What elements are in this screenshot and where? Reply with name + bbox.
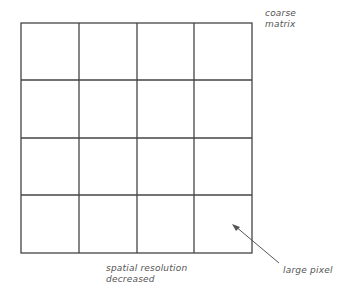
spatial-resolution-label: spatial resolution decreased: [106, 263, 187, 285]
label-line: coarse: [265, 8, 296, 19]
arrow-icon: [232, 224, 279, 263]
coarse-matrix-grid: [0, 0, 340, 299]
label-line: decreased: [106, 274, 187, 285]
large-pixel-label: large pixel: [283, 265, 333, 276]
label-line: spatial resolution: [106, 263, 187, 274]
coarse-matrix-label: coarse matrix: [265, 8, 296, 30]
label-line: matrix: [265, 19, 296, 30]
